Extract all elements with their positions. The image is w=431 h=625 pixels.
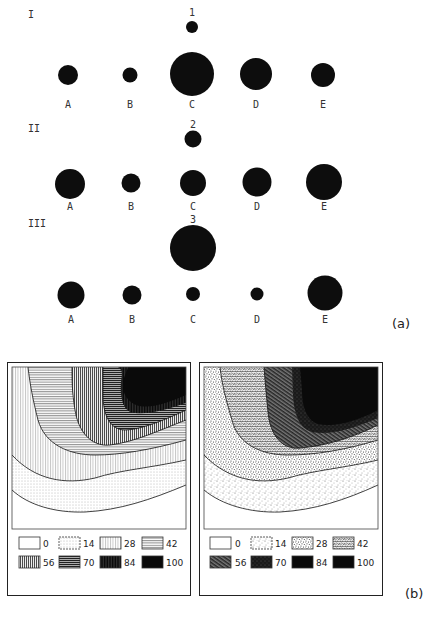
left-contour-map (12, 367, 186, 529)
bubble (123, 68, 138, 83)
bubble-label: D (254, 201, 260, 212)
part-b-label: (b) (405, 586, 423, 601)
bubble-label: D (254, 314, 260, 325)
legend-item: 42 (142, 537, 177, 549)
row-roman-label: II (28, 123, 40, 134)
bubble (180, 170, 206, 196)
bubble-label: B (127, 99, 133, 110)
legend-item: 56 (19, 556, 55, 568)
bubble (186, 287, 200, 301)
svg-text:28: 28 (124, 539, 136, 549)
svg-text:100: 100 (357, 558, 374, 568)
bubble-label: B (129, 314, 135, 325)
svg-text:14: 14 (83, 539, 95, 549)
part-a-bubble-diagram: I1ABCDEII2ABCDEIII3ABCDE (28, 7, 343, 325)
bubble (55, 169, 85, 199)
bubble-label: D (253, 99, 259, 110)
bubble (306, 164, 342, 200)
bubble (58, 282, 85, 309)
svg-text:0: 0 (235, 539, 241, 549)
top-bubble (186, 21, 198, 33)
svg-text:84: 84 (124, 558, 136, 568)
bubble-label: A (68, 314, 74, 325)
legend-item: 84 (100, 556, 136, 568)
legend-item: 100 (333, 556, 374, 568)
legend-item: 100 (142, 556, 183, 568)
bubble (123, 286, 142, 305)
svg-text:28: 28 (316, 539, 328, 549)
legend-item: 14 (59, 537, 95, 549)
row-roman-label: I (28, 9, 34, 20)
legend-item: 28 (100, 537, 136, 549)
top-bubble-label: 3 (190, 214, 196, 225)
svg-text:56: 56 (235, 558, 247, 568)
right-contour-map (204, 367, 378, 529)
svg-text:14: 14 (275, 539, 287, 549)
bubble-label: B (128, 201, 134, 212)
legend-item: 14 (251, 537, 287, 549)
svg-text:42: 42 (357, 539, 368, 549)
bubble (122, 174, 141, 193)
legend-item: 56 (210, 556, 247, 568)
bubble-label: E (322, 314, 328, 325)
bubble (308, 276, 343, 311)
svg-text:70: 70 (275, 558, 287, 568)
bubble-row: I1ABCDE (28, 7, 335, 110)
bubble-label: A (67, 201, 73, 212)
bubble-label: C (189, 99, 195, 110)
figure: I1ABCDEII2ABCDEIII3ABCDE (a) (0, 0, 431, 625)
legend-item: 84 (292, 556, 328, 568)
bubble-label: A (65, 99, 71, 110)
svg-text:70: 70 (83, 558, 95, 568)
svg-text:56: 56 (43, 558, 55, 568)
bubble-label: C (190, 201, 196, 212)
legend-item: 70 (59, 556, 95, 568)
legend-item: 28 (292, 537, 328, 549)
part-a-label: (a) (392, 316, 410, 331)
bubble-label: E (321, 201, 327, 212)
svg-text:84: 84 (316, 558, 328, 568)
bubble (251, 288, 264, 301)
top-bubble-label: 2 (190, 119, 196, 130)
bubble (170, 52, 214, 96)
legend-item: 70 (251, 556, 287, 568)
top-bubble (170, 225, 216, 271)
bubble-label: E (320, 99, 326, 110)
bubble (311, 63, 335, 87)
svg-text:100: 100 (166, 558, 183, 568)
bubble-row: III3ABCDE (28, 214, 343, 325)
svg-text:0: 0 (43, 539, 49, 549)
bubble (243, 168, 272, 197)
top-bubble (185, 131, 202, 148)
right-contour-panel: 0 14 28 42 56 70 (200, 363, 383, 596)
bubble (240, 58, 272, 90)
left-contour-panel: 0 14 28 42 56 70 (8, 363, 191, 596)
bubble (58, 65, 78, 85)
row-roman-label: III (28, 218, 46, 229)
svg-text:42: 42 (166, 539, 177, 549)
legend-item: 0 (210, 537, 241, 549)
top-bubble-label: 1 (189, 7, 195, 18)
bubble-label: C (190, 314, 196, 325)
legend-item: 0 (19, 537, 49, 549)
legend-item: 42 (333, 537, 368, 549)
bubble-row: II2ABCDE (28, 119, 342, 212)
